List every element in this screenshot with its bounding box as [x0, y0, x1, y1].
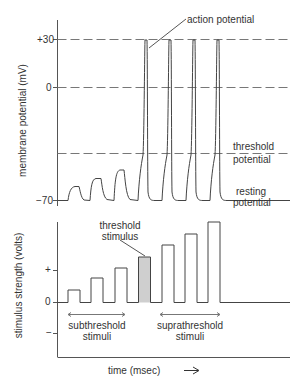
stimulus-strength-axis-label: stimulus strength (volts) — [13, 221, 24, 351]
tick-minus70: −70 — [36, 195, 53, 206]
action-potential-pointer — [149, 19, 186, 48]
membrane-potential-axis-label: membrane potential (mV) — [17, 56, 28, 186]
threshold-potential-label-2: potential — [233, 154, 271, 165]
subthreshold-label-2: stimuli — [64, 331, 130, 342]
time-axis-label: time (msec) — [108, 365, 160, 376]
suprathreshold-label-2: stimuli — [152, 331, 228, 342]
membrane-potential-trace — [58, 40, 291, 201]
tick-plus: + — [45, 264, 51, 275]
lower-panel — [53, 222, 290, 374]
threshold-stimulus-bar — [139, 257, 151, 303]
tick-zero: 0 — [46, 82, 52, 93]
resting-potential-label-1: resting — [236, 186, 266, 197]
tick-minus: − — [46, 327, 52, 338]
threshold-stimulus-label-1: threshold — [92, 220, 148, 231]
resting-potential-label-2: potential — [233, 197, 271, 208]
threshold-stimulus-label-2: stimulus — [92, 231, 148, 242]
tick-zero-volts: 0 — [45, 296, 51, 307]
subthreshold-label-1: subthreshold — [64, 320, 130, 331]
threshold-potential-label-1: threshold — [233, 141, 274, 152]
threshold-stimulus-pointer — [120, 240, 145, 256]
upper-panel — [53, 19, 290, 206]
action-potential-label: action potential — [187, 14, 254, 25]
tick-plus30: +30 — [37, 34, 54, 45]
time-arrow-icon — [184, 367, 199, 374]
subthreshold-range-arrow — [68, 313, 125, 317]
suprathreshold-range-arrow — [160, 313, 220, 317]
suprathreshold-label-1: suprathreshold — [152, 320, 228, 331]
